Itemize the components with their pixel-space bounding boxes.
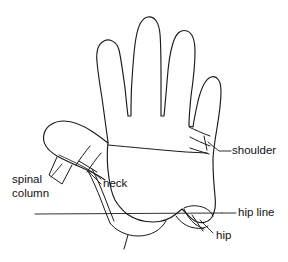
- hand-outline-path: [97, 17, 221, 223]
- hip-line-group: [35, 213, 222, 214]
- palm-heel-left-curve: [110, 221, 166, 236]
- palm-heel-notch: [124, 235, 128, 249]
- neck-band-group: [76, 146, 101, 172]
- hip-line-label: hip line: [238, 206, 274, 218]
- neck-label: neck: [103, 177, 128, 189]
- diagram-canvas: shoulder spinal column neck hip line hip: [0, 0, 288, 262]
- shoulder-band-mid: [190, 137, 210, 146]
- shoulder-tick-mark: [204, 136, 207, 150]
- spinal-bracket-path: [49, 157, 72, 184]
- hip-label: hip: [216, 229, 231, 241]
- neck-band-left: [76, 146, 90, 165]
- shoulder-leader-line: [208, 142, 231, 151]
- neck-band-right: [87, 153, 101, 172]
- shoulder-joint-bands: [189, 127, 210, 154]
- hip-line-horizontal: [35, 213, 222, 214]
- shoulder-label: shoulder: [232, 144, 276, 156]
- shoulder-band-upper: [189, 127, 210, 136]
- labels-group: shoulder spinal column neck hip line hip: [12, 144, 276, 241]
- thumb-outline-path: [44, 121, 108, 180]
- spinal-column-label-line1: spinal: [12, 173, 42, 185]
- palm-heel-group: [110, 216, 208, 249]
- spinal-column-label-line2: column: [12, 187, 49, 199]
- hip-wedge-group: [184, 206, 213, 231]
- hip-wedge-upper: [184, 206, 213, 216]
- leader-lines-group: [51, 142, 236, 233]
- hand-anatomy-diagram: shoulder spinal column neck hip line hip: [0, 0, 288, 262]
- thumb-group: [44, 121, 108, 180]
- spinal-column-bracket-group: [49, 157, 72, 184]
- hand-outline-group: [97, 17, 221, 223]
